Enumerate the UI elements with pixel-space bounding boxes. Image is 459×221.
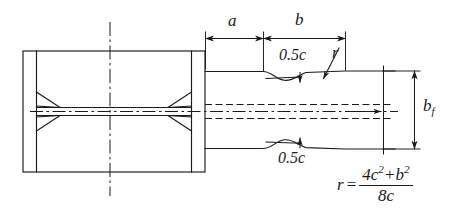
bf-subscript: f xyxy=(432,105,435,117)
radius-formula: r = 4c2+b2 8c xyxy=(337,166,413,205)
formula-num-term1: 4c xyxy=(362,165,378,184)
formula-lhs: r xyxy=(337,175,344,195)
formula-plus: + xyxy=(385,165,395,184)
formula-num-term2: b xyxy=(395,165,404,184)
formula-num-term1-exponent: 2 xyxy=(378,163,384,175)
formula-num-term2-exponent: 2 xyxy=(404,163,410,175)
dimension-label-b: b xyxy=(295,11,304,28)
formula-equals: = xyxy=(347,175,357,195)
dimension-extension-lines xyxy=(206,32,346,71)
bf-symbol: b xyxy=(423,96,432,115)
rbs-flange-cut-diagram: a b 0.5c r 0.5c bf r = 4c2+b2 8c xyxy=(0,0,459,221)
formula-denominator: 8c xyxy=(375,186,397,205)
annotation-radius-r: r xyxy=(332,45,338,61)
formula-numerator: 4c2+b2 xyxy=(359,166,412,186)
dimension-label-bf: bf xyxy=(423,97,435,117)
annotation-half-c-bottom: 0.5c xyxy=(278,150,305,166)
annotation-half-c-top: 0.5c xyxy=(279,47,306,63)
dimension-label-a: a xyxy=(228,12,237,29)
formula-fraction: 4c2+b2 8c xyxy=(359,166,412,205)
